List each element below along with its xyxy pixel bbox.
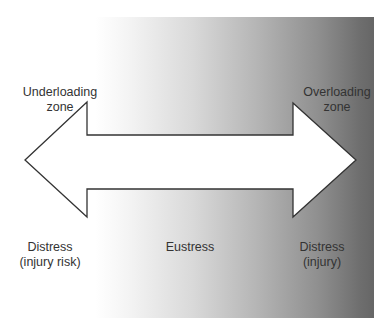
double-arrow-icon [0,0,388,329]
overloading-label-line1: Overloading [292,85,382,100]
overloading-label-line2: zone [292,100,382,115]
overloading-zone-label: Overloading zone [292,85,382,115]
underloading-zone-label: Underloading zone [10,85,110,115]
distress-right-line2: (injury) [282,255,362,270]
underloading-label-line2: zone [10,100,110,115]
distress-right-line1: Distress [282,240,362,255]
underloading-label-line1: Underloading [10,85,110,100]
distress-injury-label: Distress (injury) [282,240,362,270]
eustress-line1: Eustress [150,240,230,255]
distress-left-line1: Distress [5,240,95,255]
distress-injury-risk-label: Distress (injury risk) [5,240,95,270]
distress-left-line2: (injury risk) [5,255,95,270]
eustress-label: Eustress [150,240,230,255]
